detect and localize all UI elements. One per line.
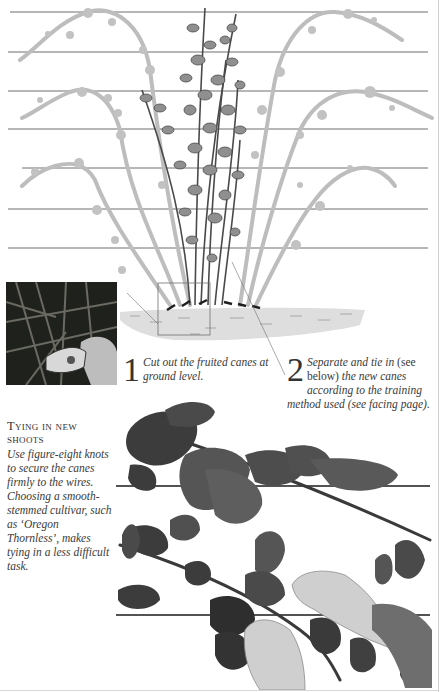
step-2-caption: 2 Separate and tie in (see below) the ne… — [287, 355, 437, 411]
tying-sidebar: Tying in new shoots Use figure-eight kno… — [7, 420, 112, 573]
sleeve — [372, 604, 432, 688]
book-page: 1 Cut out the fruited canes at ground le… — [0, 0, 445, 692]
step-1-caption: 1 Cut out the fruited canes at ground le… — [123, 355, 273, 384]
sidebar-title: Tying in new shoots — [7, 420, 112, 446]
step-1-text: Cut out the fruited canes at ground leve… — [143, 356, 269, 382]
step-1-number: 1 — [123, 356, 140, 384]
page-edge-bottom — [0, 690, 439, 691]
lower-hand — [244, 620, 305, 690]
sidebar-body: Use figure-eight knots to secure the can… — [7, 447, 112, 573]
step-2-number: 2 — [287, 356, 304, 384]
soil-ground — [120, 308, 365, 340]
old-fruited-canes — [20, 10, 432, 305]
new-cane-leaves — [140, 24, 246, 262]
secateurs-photo-art — [6, 282, 117, 385]
secateurs-photo — [6, 282, 117, 385]
page-edge-right — [438, 0, 439, 692]
step-2-text-part1: Separate and tie in — [307, 356, 394, 368]
